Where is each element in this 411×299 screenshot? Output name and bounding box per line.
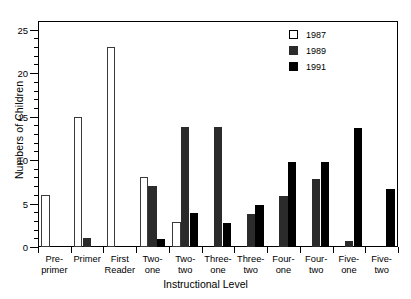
bar bbox=[172, 222, 180, 247]
bar bbox=[223, 223, 231, 247]
legend-label: 1991 bbox=[306, 62, 326, 72]
y-axis-tick-label: 5 bbox=[2, 198, 28, 209]
legend: 198719891991 bbox=[289, 28, 326, 76]
x-axis-tick bbox=[333, 247, 334, 253]
x-axis-tick bbox=[202, 247, 203, 253]
bar bbox=[345, 241, 353, 247]
bar bbox=[255, 205, 263, 247]
legend-label: 1987 bbox=[306, 30, 326, 40]
bar bbox=[190, 213, 198, 247]
x-axis-tick bbox=[136, 247, 137, 253]
y-axis-major-tick bbox=[30, 73, 38, 74]
y-axis-major-tick bbox=[30, 30, 38, 31]
bar bbox=[140, 177, 148, 247]
y-axis-major-tick bbox=[30, 204, 38, 205]
bar bbox=[288, 162, 296, 247]
bar bbox=[279, 196, 287, 247]
x-axis-category-label: Five- two bbox=[359, 254, 404, 275]
bar bbox=[312, 179, 320, 247]
legend-swatch-icon bbox=[289, 30, 298, 39]
x-axis-tick bbox=[103, 247, 104, 253]
y-axis-tick-label: 0 bbox=[2, 242, 28, 253]
y-axis-major-tick bbox=[30, 160, 38, 161]
x-axis-tick bbox=[71, 247, 72, 253]
legend-swatch-icon bbox=[289, 46, 298, 55]
x-axis-tick bbox=[300, 247, 301, 253]
x-axis-title: Instructional Level bbox=[0, 278, 411, 290]
y-axis-tick-label: 10 bbox=[2, 155, 28, 166]
bar-chart: Numbers of Children 0510152025 Pre- prim… bbox=[0, 0, 411, 299]
legend-item: 1991 bbox=[289, 60, 326, 73]
y-axis-tick-label: 25 bbox=[2, 24, 28, 35]
legend-item: 1987 bbox=[289, 28, 326, 41]
bar bbox=[83, 238, 91, 247]
bar bbox=[107, 47, 115, 247]
legend-item: 1989 bbox=[289, 44, 326, 57]
y-axis-tick-label: 20 bbox=[2, 68, 28, 79]
x-axis-tick bbox=[38, 247, 39, 253]
x-axis-tick bbox=[234, 247, 235, 253]
bar bbox=[181, 127, 189, 247]
plot-area bbox=[38, 21, 398, 247]
x-axis-tick bbox=[365, 247, 366, 253]
y-axis-major-tick bbox=[30, 247, 38, 248]
y-axis-tick-label: 15 bbox=[2, 111, 28, 122]
bar bbox=[157, 239, 165, 247]
x-axis-tick bbox=[398, 247, 399, 253]
bar bbox=[247, 214, 255, 247]
legend-swatch-icon bbox=[289, 62, 298, 71]
bar bbox=[148, 186, 156, 247]
bar bbox=[214, 127, 222, 247]
x-axis-tick bbox=[169, 247, 170, 253]
legend-label: 1989 bbox=[306, 46, 326, 56]
bar bbox=[321, 162, 329, 247]
bar bbox=[354, 128, 362, 247]
bar bbox=[41, 195, 49, 247]
x-axis-tick bbox=[267, 247, 268, 253]
y-axis-major-tick bbox=[30, 117, 38, 118]
bar bbox=[386, 189, 394, 247]
bar bbox=[74, 117, 82, 247]
